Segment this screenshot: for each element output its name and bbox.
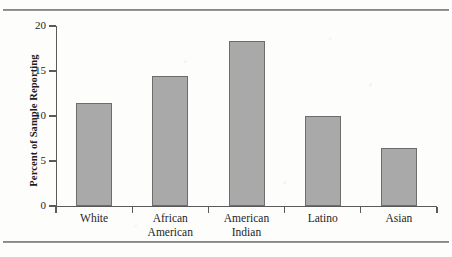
x-axis-label-white: White xyxy=(56,212,132,226)
bar-white xyxy=(76,103,112,207)
x-axis-label-line: White xyxy=(56,212,132,226)
x-axis-label-line: American xyxy=(208,212,284,226)
figure-page: Percent of Sample Reporting 05101520 Whi… xyxy=(0,0,452,257)
y-tick-label-20: 20 xyxy=(16,19,46,31)
x-axis-label-latino: Latino xyxy=(285,212,361,226)
bar-african-american xyxy=(152,76,188,207)
x-axis-label-line: African xyxy=(132,212,208,226)
bar-chart: Percent of Sample Reporting 05101520 Whi… xyxy=(0,0,452,257)
y-tick-label-10: 10 xyxy=(16,109,46,121)
x-axis-line xyxy=(56,206,437,207)
x-axis-label-american-indian: AmericanIndian xyxy=(208,212,284,239)
y-tick-label-5: 5 xyxy=(16,154,46,166)
bar-american-indian xyxy=(229,41,265,206)
x-axis-label-asian: Asian xyxy=(361,212,437,226)
bar-asian xyxy=(381,148,417,207)
y-tick-20 xyxy=(49,25,56,26)
y-tick-5 xyxy=(49,160,56,161)
x-axis-label-line: Indian xyxy=(208,226,284,240)
x-axis-label-line: Latino xyxy=(285,212,361,226)
x-axis-label-line: American xyxy=(132,226,208,240)
y-tick-15 xyxy=(49,70,56,71)
x-axis-label-line: Asian xyxy=(361,212,437,226)
y-axis-line xyxy=(56,26,57,207)
bar-latino xyxy=(305,116,341,206)
x-axis-label-african-american: AfricanAmerican xyxy=(132,212,208,239)
y-tick-10 xyxy=(49,115,56,116)
y-tick-label-15: 15 xyxy=(16,64,46,76)
y-tick-label-0: 0 xyxy=(16,199,46,211)
